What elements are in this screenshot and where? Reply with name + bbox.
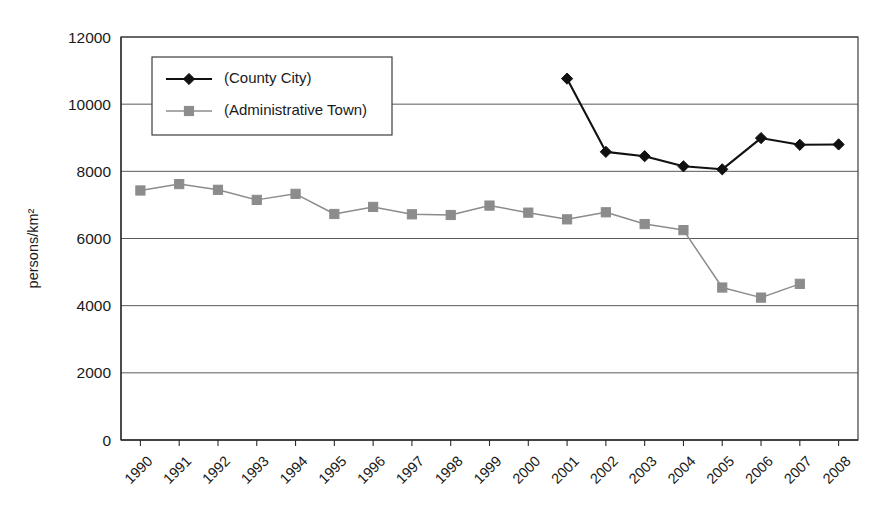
x-tick-label-1996: 1996 <box>354 453 388 487</box>
x-tick-label-1993: 1993 <box>238 453 272 487</box>
x-tick-label-1999: 1999 <box>470 453 504 487</box>
data-point-2001 <box>562 215 571 224</box>
x-tick-label-1992: 1992 <box>199 453 233 487</box>
x-tick-label-2001: 2001 <box>548 453 582 487</box>
legend: (County City)(Administrative Town) <box>152 57 392 135</box>
x-tick-label-1990: 1990 <box>121 453 155 487</box>
data-point-2007 <box>794 139 805 150</box>
data-point-2001 <box>561 73 572 84</box>
series-administrative-town <box>136 179 805 302</box>
y-tick-label-2000: 2000 <box>77 364 112 381</box>
data-point-1998 <box>446 210 455 219</box>
chart-canvas: 020004000600080001000012000persons/km²19… <box>0 0 889 520</box>
series-county-city <box>561 73 844 175</box>
y-axis-label: persons/km² <box>25 208 41 288</box>
x-tick-label-2003: 2003 <box>626 453 660 487</box>
data-point-1997 <box>407 210 416 219</box>
data-point-2003 <box>639 151 650 162</box>
x-tick-label-1998: 1998 <box>432 453 466 487</box>
legend-label: (Administrative Town) <box>224 101 367 118</box>
data-point-2003 <box>640 219 649 228</box>
y-tick-label-10000: 10000 <box>68 96 111 113</box>
data-point-1992 <box>213 185 222 194</box>
x-tick-label-2002: 2002 <box>587 453 621 487</box>
x-tick-label-1994: 1994 <box>277 453 311 487</box>
y-tick-label-4000: 4000 <box>77 297 112 314</box>
data-point-1994 <box>291 189 300 198</box>
x-tick-label-1995: 1995 <box>315 453 349 487</box>
y-tick-label-6000: 6000 <box>77 230 112 247</box>
x-tick-label-2004: 2004 <box>664 453 698 487</box>
data-point-1991 <box>175 179 184 188</box>
data-point-1996 <box>369 202 378 211</box>
population-density-line-chart: 020004000600080001000012000persons/km²19… <box>0 0 889 520</box>
x-tick-label-2007: 2007 <box>781 453 815 487</box>
data-point-2005 <box>718 283 727 292</box>
legend-label: (County City) <box>224 69 312 86</box>
series-line <box>140 184 799 298</box>
data-point-2004 <box>679 226 688 235</box>
x-tick-label-2005: 2005 <box>703 453 737 487</box>
data-point-2002 <box>600 146 611 157</box>
x-tick-label-2008: 2008 <box>820 453 854 487</box>
x-tick-label-1997: 1997 <box>393 453 427 487</box>
data-point-2004 <box>678 161 689 172</box>
data-point-2007 <box>795 279 804 288</box>
y-axis-ticks: 020004000600080001000012000 <box>68 29 111 449</box>
x-axis-ticks: 1990199119921993199419951996199719981999… <box>121 440 853 487</box>
y-tick-label-8000: 8000 <box>77 163 112 180</box>
x-tick-label-1991: 1991 <box>160 453 194 487</box>
data-point-1995 <box>330 209 339 218</box>
data-point-2000 <box>524 208 533 217</box>
y-tick-label-12000: 12000 <box>68 29 111 46</box>
y-tick-label-0: 0 <box>102 432 111 449</box>
data-point-1999 <box>485 201 494 210</box>
x-tick-label-2000: 2000 <box>509 453 543 487</box>
data-point-2002 <box>601 208 610 217</box>
data-point-2006 <box>756 293 765 302</box>
x-tick-label-2006: 2006 <box>742 453 776 487</box>
data-point-1993 <box>252 195 261 204</box>
legend-swatch-marker <box>184 106 193 115</box>
data-point-1990 <box>136 186 145 195</box>
data-point-2008 <box>833 139 844 150</box>
